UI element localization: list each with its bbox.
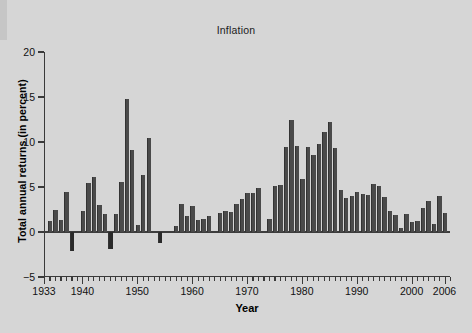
x-tick-minor [280, 277, 281, 281]
x-tick-minor [252, 277, 253, 281]
x-tick-minor [242, 277, 243, 281]
bar [196, 220, 200, 232]
bar [240, 199, 244, 232]
bar [273, 186, 277, 232]
bar [404, 214, 408, 232]
y-tick-label: 5 [29, 181, 35, 193]
x-tick-minor [274, 277, 275, 281]
bar [48, 221, 52, 232]
x-tick-minor [148, 277, 149, 281]
x-tick-label: 2006 [433, 285, 456, 297]
x-tick-minor [88, 277, 89, 281]
x-tick-minor [159, 277, 160, 281]
x-tick-minor [384, 277, 385, 281]
bar [421, 208, 425, 232]
y-tick-label: 10 [23, 136, 35, 148]
bar [125, 99, 129, 232]
x-tick-minor [318, 277, 319, 281]
x-tick-label: 1980 [290, 285, 313, 297]
chart-title: Inflation [0, 24, 472, 36]
bar [141, 175, 145, 232]
x-tick-major [247, 277, 248, 284]
x-tick-minor [198, 277, 199, 281]
x-tick-minor [329, 277, 330, 281]
bar [245, 193, 249, 232]
bar [311, 155, 315, 232]
x-tick-minor [231, 277, 232, 281]
x-tick-minor [258, 277, 259, 281]
x-tick-label: 1970 [235, 285, 258, 297]
x-tick-minor [225, 277, 226, 281]
bar [147, 138, 151, 232]
plot-frame [44, 52, 450, 277]
x-tick-label: 2000 [400, 285, 423, 297]
plot-area: 20151050−5 19331940195019601970198019902… [44, 52, 450, 277]
x-tick-minor [203, 277, 204, 281]
y-tick-label: 20 [23, 46, 35, 58]
x-tick-minor [291, 277, 292, 281]
x-tick-minor [340, 277, 341, 281]
x-tick-label: 1960 [180, 285, 203, 297]
chart-figure: Inflation Total annual returns (in perce… [0, 0, 472, 333]
x-tick-minor [121, 277, 122, 281]
x-tick-minor [214, 277, 215, 281]
x-tick-minor [346, 277, 347, 281]
x-tick-label: 1933 [32, 285, 55, 297]
x-tick-minor [143, 277, 144, 281]
bar [289, 120, 293, 232]
bar [70, 232, 74, 251]
x-tick-major [192, 277, 193, 284]
x-tick-minor [71, 277, 72, 281]
bar [256, 188, 260, 232]
x-tick-label: 1990 [345, 285, 368, 297]
bar [179, 204, 183, 232]
bar [174, 226, 178, 232]
x-tick-minor [390, 277, 391, 281]
y-tick [38, 186, 44, 187]
x-tick-major [82, 277, 83, 284]
x-tick-major [302, 277, 303, 284]
x-tick-minor [406, 277, 407, 281]
bar [415, 221, 419, 232]
x-tick-minor [165, 277, 166, 281]
x-axis-label: Year [44, 302, 450, 314]
bar [108, 232, 112, 249]
x-tick-minor [379, 277, 380, 281]
x-tick-minor [66, 277, 67, 281]
y-tick-label: 15 [23, 91, 35, 103]
x-tick-minor [181, 277, 182, 281]
x-tick-minor [335, 277, 336, 281]
x-tick-minor [115, 277, 116, 281]
x-tick-minor [351, 277, 352, 281]
bar [81, 211, 85, 232]
x-tick-minor [263, 277, 264, 281]
x-tick-minor [170, 277, 171, 281]
bar [190, 206, 194, 232]
bar [355, 192, 359, 232]
x-tick-major [445, 277, 446, 284]
bar [361, 194, 365, 232]
bar [185, 216, 189, 232]
bar [333, 148, 337, 232]
x-tick-minor [176, 277, 177, 281]
bar [130, 150, 134, 232]
x-tick-minor [428, 277, 429, 281]
x-tick-minor [450, 277, 451, 281]
x-tick-minor [368, 277, 369, 281]
bar [366, 195, 370, 232]
x-tick-minor [434, 277, 435, 281]
bar [437, 196, 441, 232]
bar [92, 177, 96, 232]
bar [322, 132, 326, 232]
bar [86, 183, 90, 232]
bar [64, 192, 68, 233]
bar [267, 219, 271, 232]
bar [251, 193, 255, 232]
bar [207, 216, 211, 232]
bar [306, 147, 310, 233]
x-tick-minor [313, 277, 314, 281]
x-tick-minor [307, 277, 308, 281]
bar [393, 215, 397, 232]
x-tick-minor [395, 277, 396, 281]
x-tick-minor [236, 277, 237, 281]
